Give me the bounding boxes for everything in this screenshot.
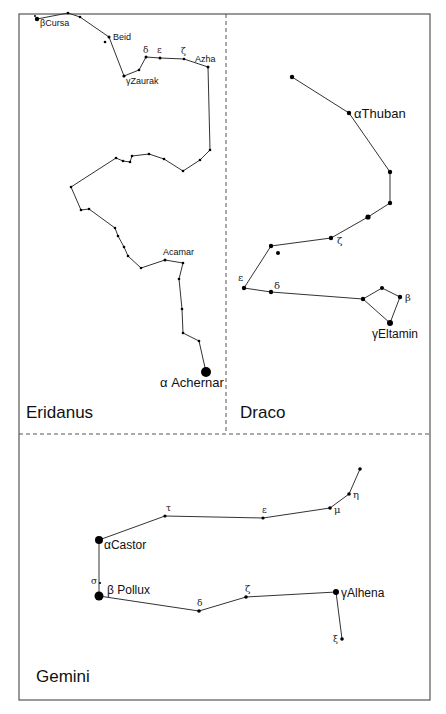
star-marker bbox=[358, 467, 362, 471]
star-marker bbox=[209, 149, 212, 152]
star-marker bbox=[198, 340, 201, 343]
star-marker bbox=[115, 157, 118, 160]
star-label: ζ bbox=[337, 235, 343, 246]
star-marker bbox=[347, 492, 351, 496]
star-marker bbox=[178, 278, 181, 281]
star-label: βCursa bbox=[40, 18, 69, 28]
star-marker bbox=[333, 589, 339, 595]
panel-draco: αThubanζεδβγEltaminDraco bbox=[238, 75, 418, 422]
star-marker bbox=[182, 170, 185, 173]
constellation-diagram: βCursaBeidγZaurakδεζAzhaAcamarα Achernar… bbox=[0, 0, 446, 714]
star-marker bbox=[145, 56, 148, 59]
star-marker bbox=[269, 290, 273, 294]
star-marker bbox=[95, 592, 104, 601]
star-label: β bbox=[405, 292, 411, 303]
star-marker bbox=[140, 267, 143, 270]
panel-gemini: τεμηαCastorσβ PolluxδζγAlhenaξGemini bbox=[36, 467, 385, 686]
star-label: Acamar bbox=[163, 247, 194, 257]
star-marker bbox=[104, 41, 107, 44]
star-marker bbox=[347, 111, 351, 115]
panel-eridanus: βCursaBeidγZaurakδεζAzhaAcamarα Achernar… bbox=[26, 12, 225, 422]
star-label: ξ bbox=[333, 634, 338, 644]
star-marker bbox=[117, 235, 120, 238]
star-marker bbox=[207, 66, 210, 69]
star-marker bbox=[123, 246, 126, 249]
star-label: γZaurak bbox=[126, 76, 159, 86]
star-marker bbox=[290, 75, 294, 79]
star-marker bbox=[276, 251, 280, 255]
panel-title: Eridanus bbox=[26, 403, 93, 422]
star-label: δ bbox=[197, 598, 202, 608]
star-marker bbox=[70, 186, 73, 189]
star-label: ε bbox=[262, 505, 267, 515]
star-marker bbox=[138, 69, 141, 72]
star-marker bbox=[183, 58, 186, 61]
star-label: τ bbox=[166, 503, 171, 513]
star-marker bbox=[148, 153, 151, 156]
star-marker bbox=[365, 214, 370, 219]
star-marker bbox=[95, 536, 103, 544]
constellation-lines bbox=[37, 13, 210, 372]
star-marker bbox=[387, 320, 393, 326]
star-label: αThuban bbox=[354, 106, 406, 121]
star-marker bbox=[88, 208, 91, 211]
star-label: ζ bbox=[181, 46, 186, 56]
star-marker bbox=[329, 236, 333, 240]
star-marker bbox=[129, 161, 132, 164]
star-label: γAlhena bbox=[341, 586, 385, 600]
star-label: σ bbox=[91, 576, 97, 586]
star-marker bbox=[79, 16, 82, 19]
star-marker bbox=[388, 201, 392, 205]
star-marker bbox=[122, 160, 125, 163]
star-marker bbox=[163, 514, 166, 517]
star-label: αCastor bbox=[104, 538, 146, 552]
star-label: δ bbox=[143, 45, 148, 55]
star-marker bbox=[127, 255, 130, 258]
panel-title: Gemini bbox=[36, 667, 90, 686]
star-label: β Pollux bbox=[107, 583, 150, 597]
star-marker bbox=[163, 158, 166, 161]
star-marker bbox=[398, 295, 402, 299]
star-marker bbox=[114, 227, 117, 230]
constellation-lines bbox=[99, 469, 360, 639]
star-marker bbox=[67, 12, 70, 15]
star-marker bbox=[35, 17, 39, 21]
star-marker bbox=[159, 57, 162, 60]
star-marker bbox=[131, 155, 134, 158]
star-marker bbox=[181, 308, 184, 311]
star-marker bbox=[244, 595, 248, 599]
star-marker bbox=[80, 209, 83, 212]
star-marker bbox=[380, 286, 384, 290]
star-label: Beid bbox=[113, 32, 131, 42]
star-marker bbox=[108, 36, 111, 39]
star-marker bbox=[269, 244, 273, 248]
star-label: μ bbox=[334, 504, 341, 515]
star-label: ε bbox=[157, 45, 162, 55]
star-marker bbox=[182, 262, 185, 265]
star-marker bbox=[340, 637, 344, 641]
star-label: γEltamin bbox=[372, 327, 418, 341]
star-marker bbox=[261, 516, 264, 519]
star-marker bbox=[242, 286, 246, 290]
star-marker bbox=[182, 332, 185, 335]
star-label: Azha bbox=[195, 54, 216, 64]
star-label: η bbox=[353, 489, 359, 500]
star-marker bbox=[164, 259, 167, 262]
star-label: α Achernar bbox=[160, 375, 225, 390]
star-marker bbox=[388, 170, 392, 174]
panel-title: Draco bbox=[240, 403, 285, 422]
star-marker bbox=[328, 506, 332, 510]
star-label: δ bbox=[274, 280, 280, 291]
star-label: ε bbox=[238, 272, 243, 283]
star-marker bbox=[361, 297, 365, 301]
star-marker bbox=[34, 15, 36, 17]
star-label: ζ bbox=[245, 583, 251, 594]
star-marker bbox=[197, 609, 201, 613]
star-marker bbox=[99, 582, 101, 584]
star-marker bbox=[199, 159, 202, 162]
